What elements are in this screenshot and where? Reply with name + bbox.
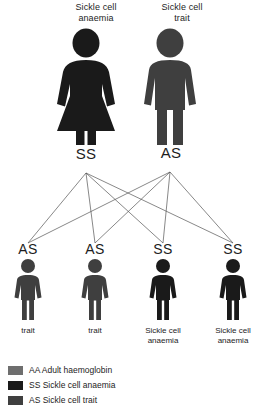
line-father-child-4 xyxy=(170,172,233,243)
child-caption-4-line1: Sickle cell xyxy=(215,326,251,335)
parent-figure-father xyxy=(144,29,196,146)
mother-head-icon xyxy=(73,29,100,58)
parent-genotype-mother: SS xyxy=(46,146,126,162)
father-body-icon xyxy=(144,60,196,145)
line-father-child-1 xyxy=(28,172,170,243)
child-1-head-icon xyxy=(21,259,35,273)
child-3-body-icon xyxy=(150,275,177,320)
child-figure-3 xyxy=(150,259,177,320)
child-2-body-icon xyxy=(82,275,109,320)
parent-caption-father: Sickle cell trait xyxy=(132,2,232,24)
child-4-head-icon xyxy=(226,259,240,273)
line-father-child-3 xyxy=(163,172,170,243)
child-figure-4 xyxy=(220,259,247,320)
father-head-icon xyxy=(157,29,184,58)
child-2-head-icon xyxy=(88,259,102,273)
line-mother-child-4 xyxy=(86,173,233,243)
child-figure-2 xyxy=(82,259,109,320)
parent-caption-father-line2: trait xyxy=(174,13,190,23)
legend-label-aa: AA Adult haemoglobin xyxy=(29,365,112,375)
inheritance-lines xyxy=(28,172,233,243)
legend: AA Adult haemoglobin SS Sickle cell anae… xyxy=(8,363,208,408)
child-caption-1: trait xyxy=(0,326,56,336)
parent-caption-mother-line1: Sickle cell xyxy=(75,2,116,12)
pedigree-diagram xyxy=(0,0,273,413)
child-genotype-4: SS xyxy=(205,241,261,257)
child-caption-4-line2: anaemia xyxy=(218,336,249,345)
child-caption-2-line1: trait xyxy=(88,326,101,335)
mother-body-icon xyxy=(57,60,115,145)
child-figure-1 xyxy=(15,259,42,320)
child-4-body-icon xyxy=(220,275,247,320)
legend-item-as: AS Sickle cell trait xyxy=(8,393,208,407)
child-caption-2: trait xyxy=(67,326,123,336)
legend-item-ss: SS Sickle cell anaemia xyxy=(8,378,208,392)
parent-caption-mother: Sickle cell anaemia xyxy=(46,2,146,24)
line-mother-child-1 xyxy=(28,173,86,243)
child-caption-3: Sickle cell anaemia xyxy=(129,326,197,346)
child-caption-4: Sickle cell anaemia xyxy=(199,326,267,346)
legend-item-aa: AA Adult haemoglobin xyxy=(8,363,208,377)
parent-caption-mother-line2: anaemia xyxy=(78,13,113,23)
child-caption-3-line2: anaemia xyxy=(148,336,179,345)
legend-swatch-aa xyxy=(8,366,23,375)
child-3-head-icon xyxy=(156,259,170,273)
child-genotype-3: SS xyxy=(135,241,191,257)
parent-caption-father-line1: Sickle cell xyxy=(161,2,202,12)
parent-figure-mother xyxy=(57,29,115,146)
legend-label-as: AS Sickle cell trait xyxy=(29,395,97,405)
legend-swatch-ss xyxy=(8,381,23,390)
child-genotype-1: AS xyxy=(0,241,56,257)
parent-genotype-father: AS xyxy=(131,145,211,161)
legend-swatch-as xyxy=(8,396,23,405)
child-caption-1-line1: trait xyxy=(21,326,34,335)
child-1-body-icon xyxy=(15,275,42,320)
child-genotype-2: AS xyxy=(67,241,123,257)
line-mother-child-2 xyxy=(86,173,95,243)
child-caption-3-line1: Sickle cell xyxy=(145,326,181,335)
legend-label-ss: SS Sickle cell anaemia xyxy=(29,380,115,390)
